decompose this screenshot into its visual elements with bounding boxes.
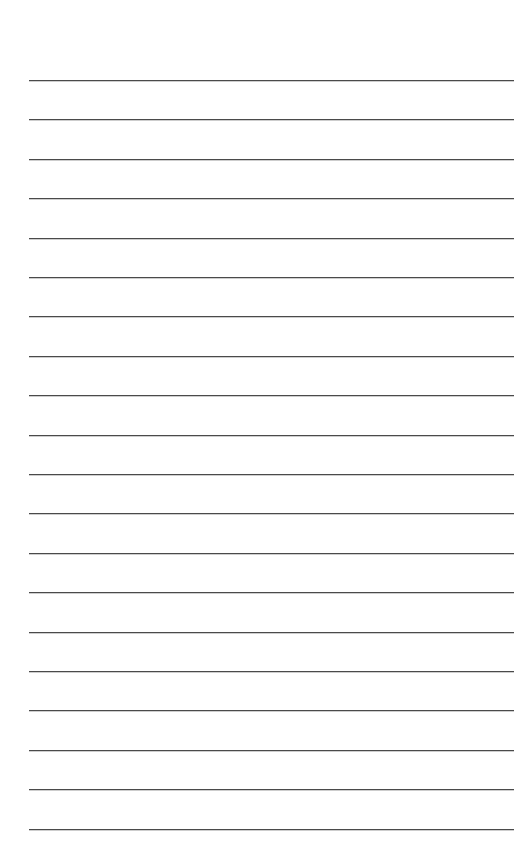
ruled-line [29, 159, 514, 160]
ruled-line [29, 316, 514, 317]
ruled-line [29, 395, 514, 396]
ruled-line [29, 789, 514, 790]
ruled-line [29, 632, 514, 633]
ruled-line [29, 238, 514, 239]
ruled-line [29, 80, 514, 81]
ruled-line [29, 553, 514, 554]
ruled-line [29, 474, 514, 475]
ruled-line [29, 750, 514, 751]
ruled-line [29, 710, 514, 711]
ruled-line [29, 119, 514, 120]
ruled-line [29, 277, 514, 278]
ruled-line [29, 435, 514, 436]
lined-paper-sheet [0, 0, 528, 864]
ruled-line [29, 829, 514, 830]
ruled-line [29, 513, 514, 514]
ruled-line [29, 671, 514, 672]
ruled-line [29, 198, 514, 199]
ruled-line [29, 592, 514, 593]
ruled-line [29, 356, 514, 357]
